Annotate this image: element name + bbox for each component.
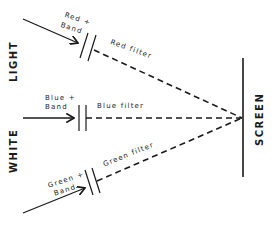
blue-band-label-2: Band: [45, 103, 68, 111]
white-label: WHITE: [8, 129, 19, 173]
green-dashed-beam: [97, 118, 242, 181]
blue-band-label-1: Blue +: [45, 94, 76, 102]
screen-label: SCREEN: [254, 93, 265, 146]
filter-diagram: [0, 0, 275, 227]
light-label: LIGHT: [8, 41, 19, 82]
blue-filter-label: Blue filter: [97, 102, 144, 110]
red-filter-line-1: [80, 33, 88, 58]
red-filter-line-2: [88, 35, 96, 61]
green-filter-line-1: [85, 170, 93, 195]
